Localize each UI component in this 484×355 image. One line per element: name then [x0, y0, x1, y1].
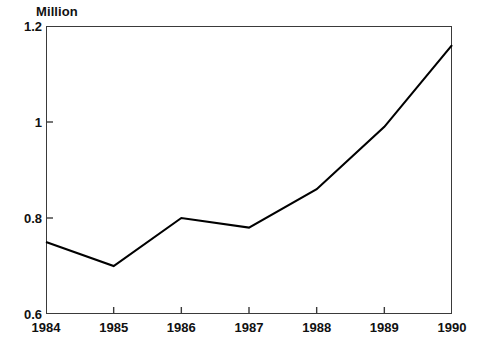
line-chart: Million 0.60.811.2 198419851986198719881…	[0, 0, 484, 355]
x-tick-label: 1986	[167, 320, 196, 335]
x-tick-label: 1987	[235, 320, 264, 335]
x-tick-label: 1985	[99, 320, 128, 335]
x-tick-label: 1990	[438, 320, 467, 335]
x-tick-label: 1988	[302, 320, 331, 335]
x-axis-labels: 1984198519861987198819891990	[0, 0, 484, 355]
x-tick-label: 1984	[32, 320, 61, 335]
x-tick-label: 1989	[370, 320, 399, 335]
